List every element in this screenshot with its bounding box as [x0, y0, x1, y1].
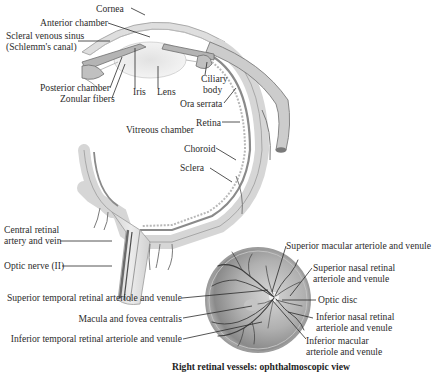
label-choroid: Choroid [184, 143, 215, 154]
label-inferior-nasal: Inferior nasal retinal [316, 311, 394, 322]
label-superior-temporal: Superior temporal retinal arteriole and … [7, 292, 182, 303]
label-superior-nasal-2: arteriole and venule [313, 273, 389, 284]
label-ciliary: Ciliary [201, 73, 228, 84]
eye-anatomy-diagram: Cornea Anterior chamber Scleral venous s… [0, 0, 440, 378]
label-sclera: Sclera [180, 162, 204, 173]
label-inferior-macular-2: arteriole and venule [306, 346, 382, 357]
label-superior-nasal: Superior nasal retinal [313, 262, 395, 273]
label-inferior-macular: Inferior macular [306, 335, 369, 346]
macula [244, 299, 260, 311]
label-optic-nerve: Optic nerve (II) [4, 260, 64, 271]
label-ciliary-body: body [203, 84, 222, 95]
label-scleral-venous-sinus: Scleral venous sinus [6, 30, 84, 41]
label-schlemms-canal: (Schlemm's canal) [6, 41, 77, 52]
label-inferior-temporal: Inferior temporal retinal arteriole and … [11, 333, 182, 344]
label-iris: Iris [133, 86, 146, 97]
label-zonular-fibers: Zonular fibers [60, 93, 115, 104]
label-anterior-chamber: Anterior chamber [40, 17, 108, 28]
label-vitreous-chamber: Vitreous chamber [126, 124, 194, 135]
label-superior-macular: Superior macular arteriole and venule [286, 240, 431, 251]
label-retina: Retina [196, 117, 221, 128]
label-central-retinal-artery-vein: artery and vein [4, 235, 62, 246]
extraocular-muscle [206, 42, 290, 150]
label-cornea: Cornea [96, 3, 124, 14]
label-ora-serrata: Ora serrata [180, 98, 222, 109]
label-posterior-chamber: Posterior chamber [40, 82, 110, 93]
label-central-retinal: Central retinal [4, 224, 59, 235]
label-macula-fovea: Macula and fovea centralis [78, 313, 182, 324]
label-inferior-nasal-2: arteriole and venule [316, 322, 392, 333]
label-optic-disc: Optic disc [318, 294, 357, 305]
fundus-caption: Right retinal vessels: ophthalmoscopic v… [172, 361, 350, 372]
label-lens: Lens [157, 86, 176, 97]
